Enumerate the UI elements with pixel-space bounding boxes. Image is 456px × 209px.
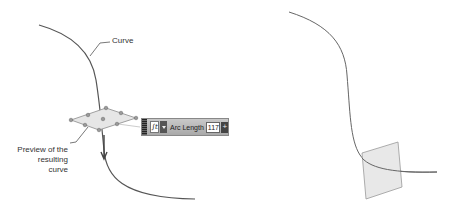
arc-length-label: Arc Length xyxy=(170,124,204,131)
preview-label-line2: resulting curve xyxy=(16,155,68,175)
diagram-canvas xyxy=(0,0,456,209)
integral-icon[interactable]: ∫t xyxy=(150,121,159,133)
arc-length-input[interactable]: 117 xyxy=(206,122,221,133)
curve-label: Curve xyxy=(112,36,133,46)
preview-label-line1: Preview of the xyxy=(16,145,68,155)
curve-leader-line xyxy=(90,42,110,56)
right-curve xyxy=(289,12,437,172)
preview-label: Preview of the resulting curve xyxy=(16,145,68,175)
toolbar-leader-line xyxy=(118,124,140,127)
arc-length-toolbar: ∫t Arc Length 117 + xyxy=(141,118,229,136)
chevron-down-icon[interactable] xyxy=(160,121,167,133)
direction-arrow-icon xyxy=(101,135,107,159)
drag-handle[interactable] xyxy=(142,119,147,135)
plus-icon[interactable]: + xyxy=(221,122,228,133)
preview-leader-line xyxy=(70,127,88,143)
